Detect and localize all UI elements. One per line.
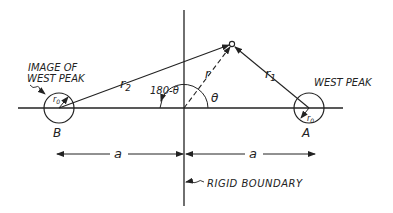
boundary-leader xyxy=(186,181,204,183)
west-peak-image-label: WEST PEAK xyxy=(27,73,86,84)
field-point xyxy=(229,41,234,46)
r2-label: r2 xyxy=(120,76,131,93)
west-peak-label: WEST PEAK xyxy=(314,77,373,88)
distance-a-left-label: a xyxy=(114,146,122,161)
point-a-label: A xyxy=(301,126,310,140)
supplementary-angle-label: 180-θ xyxy=(150,85,179,96)
point-b-label: B xyxy=(53,126,61,140)
diagram-canvas: IMAGE OF WEST PEAK WEST PEAK r2 r1 r 180… xyxy=(0,0,393,213)
r1-label: r1 xyxy=(265,66,276,83)
angle-tick xyxy=(160,100,162,108)
r0-left-label: r0 xyxy=(53,95,60,105)
rigid-boundary-label: RIGID BOUNDARY xyxy=(207,178,303,189)
image-of-label: IMAGE OF xyxy=(28,62,78,73)
r0-right-label: r0 xyxy=(307,114,314,124)
distance-a-right-label: a xyxy=(249,146,257,161)
theta-arc xyxy=(198,89,208,108)
image-leader xyxy=(30,85,45,94)
image-method-diagram: IMAGE OF WEST PEAK WEST PEAK r2 r1 r 180… xyxy=(0,0,393,213)
theta-label: θ xyxy=(211,91,219,105)
